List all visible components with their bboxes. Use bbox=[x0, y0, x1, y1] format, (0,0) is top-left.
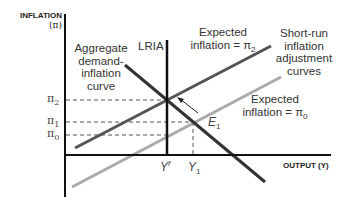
expected-pi0-line: Expected bbox=[235, 93, 315, 106]
y-axis-title: INFLATION bbox=[7, 11, 62, 20]
lria-label: LRIA bbox=[138, 40, 164, 53]
dashed-guides bbox=[66, 100, 193, 155]
expected-pi2-label: Expected inflation = π2 bbox=[183, 26, 263, 53]
tick-pi2: π2 bbox=[47, 92, 59, 105]
sria-label-line: inflation bbox=[268, 40, 340, 53]
ad-label-line: demand- bbox=[66, 55, 136, 68]
y-axis-symbol: (π) bbox=[7, 21, 62, 30]
sria-label-line: adjustment bbox=[268, 52, 340, 65]
ad-label-line: inflation bbox=[66, 67, 136, 80]
ad-curve-label: Aggregate demand- inflation curve bbox=[66, 42, 136, 92]
sria-label-line: curves bbox=[268, 65, 340, 78]
tick-pi1: π1 bbox=[47, 114, 59, 127]
expected-pi2-line: inflation = π2 bbox=[183, 39, 263, 54]
ad-label-line: curve bbox=[66, 80, 136, 93]
expected-pi0-label: Expected inflation = π0 bbox=[235, 93, 315, 120]
sria-label-line: Short-run bbox=[268, 27, 340, 40]
tick-yf: Yf bbox=[160, 160, 170, 174]
expected-pi2-line: Expected bbox=[183, 26, 263, 39]
tick-pi0: π0 bbox=[47, 127, 59, 140]
sria-curves-label: Short-run inflation adjustment curves bbox=[268, 27, 340, 77]
equilibrium-e1-label: E1 bbox=[208, 115, 220, 129]
expected-pi0-line: inflation = π0 bbox=[235, 106, 315, 121]
x-axis-label: OUTPUT (Y) bbox=[283, 161, 329, 170]
tick-y1: Y1 bbox=[188, 160, 200, 174]
y-axis-label: INFLATION (π) bbox=[7, 11, 62, 30]
ad-label-line: Aggregate bbox=[66, 42, 136, 55]
